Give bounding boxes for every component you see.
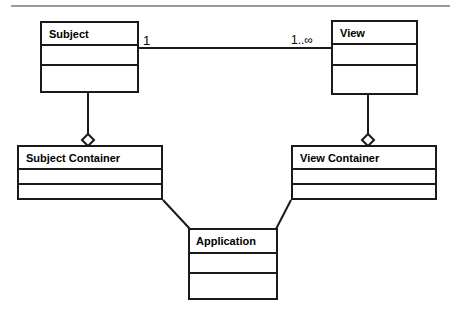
class-attributes-application [190, 254, 276, 274]
class-title-subject: Subject [42, 23, 137, 46]
class-title-view-container: View Container [293, 147, 435, 170]
class-operations-view [333, 66, 416, 93]
uml-class-diagram: Subject View Subject Container View Cont… [0, 0, 459, 319]
multiplicity-view-end: 1..∞ [291, 34, 313, 46]
class-title-subject-container: Subject Container [19, 147, 161, 170]
class-box-application[interactable]: Application [188, 228, 278, 300]
class-operations-subject-container [19, 185, 161, 198]
class-box-subject-container[interactable]: Subject Container [17, 145, 163, 200]
association-view-container-application [276, 200, 291, 229]
class-attributes-view-container [293, 170, 435, 185]
class-box-view[interactable]: View [331, 20, 418, 95]
class-attributes-subject-container [19, 170, 161, 185]
class-attributes-view [333, 45, 416, 66]
class-operations-subject [42, 66, 137, 91]
association-subject-container-application [163, 200, 190, 229]
multiplicity-subject-end: 1 [143, 34, 150, 47]
class-title-application: Application [190, 230, 276, 254]
class-operations-view-container [293, 185, 435, 198]
class-title-view: View [333, 22, 416, 45]
class-box-subject[interactable]: Subject [40, 21, 139, 93]
class-attributes-subject [42, 46, 137, 66]
class-operations-application [190, 274, 276, 298]
class-box-view-container[interactable]: View Container [291, 145, 437, 200]
